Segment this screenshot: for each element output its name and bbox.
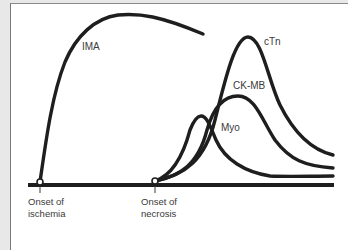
ischemia-onset-marker <box>37 179 43 185</box>
ckmb-label: CK-MB <box>233 80 266 91</box>
ischemia-label-line1: Onset of <box>28 196 64 207</box>
biomarker-timeline-diagram: IMA cTn CK-MB Myo Onset of ischemia Onse… <box>0 0 348 250</box>
necrosis-onset-marker <box>152 178 158 184</box>
ischemia-label-line2: ischemia <box>28 208 66 219</box>
ctn-label: cTn <box>264 36 281 47</box>
necrosis-label-line2: necrosis <box>141 208 177 219</box>
myo-label: Myo <box>221 122 240 133</box>
necrosis-label-line1: Onset of <box>141 196 177 207</box>
ima-label: IMA <box>82 41 100 52</box>
ctn-curve <box>155 37 333 181</box>
